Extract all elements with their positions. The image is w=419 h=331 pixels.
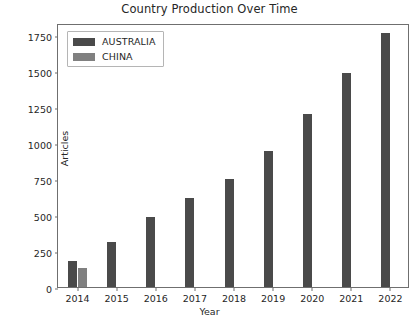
y-tick-label: 1250 — [28, 103, 58, 114]
legend-item-australia: AUSTRALIA — [73, 36, 156, 47]
bar-australia-2019 — [264, 151, 273, 287]
x-tick-mark — [351, 287, 352, 291]
legend-swatch-china — [73, 53, 95, 61]
bar-australia-2018 — [225, 179, 234, 287]
page-title: Country Production Over Time — [0, 2, 419, 16]
y-tick-label: 1500 — [28, 67, 58, 78]
legend-swatch-australia — [73, 38, 95, 46]
y-tick-label: 1750 — [28, 31, 58, 42]
y-tick-label: 1000 — [28, 139, 58, 150]
bar-australia-2017 — [185, 198, 194, 287]
x-tick-mark — [312, 287, 313, 291]
bar-australia-2020 — [303, 114, 312, 287]
x-tick-mark — [77, 287, 78, 291]
legend-item-china: CHINA — [73, 51, 156, 62]
x-tick-mark — [194, 287, 195, 291]
x-tick-mark — [390, 287, 391, 291]
chart-figure: Country Production Over Time Articles 02… — [0, 0, 419, 331]
y-tick-mark — [55, 289, 59, 290]
x-tick-mark — [155, 287, 156, 291]
bar-australia-2022 — [381, 33, 390, 287]
x-tick-mark — [234, 287, 235, 291]
x-tick-mark — [273, 287, 274, 291]
bar-australia-2021 — [342, 73, 351, 287]
bar-australia-2016 — [146, 217, 155, 287]
plot-axes: Articles 02505007501000125015001750 2014… — [57, 24, 409, 288]
bar-china-2014 — [78, 268, 87, 287]
x-tick-mark — [116, 287, 117, 291]
legend-label-china: CHINA — [102, 51, 133, 62]
bar-australia-2014 — [68, 261, 77, 287]
chart-legend: AUSTRALIA CHINA — [67, 31, 164, 67]
bar-australia-2015 — [107, 242, 116, 287]
legend-label-australia: AUSTRALIA — [102, 36, 156, 47]
x-axis-label: Year — [0, 306, 419, 317]
